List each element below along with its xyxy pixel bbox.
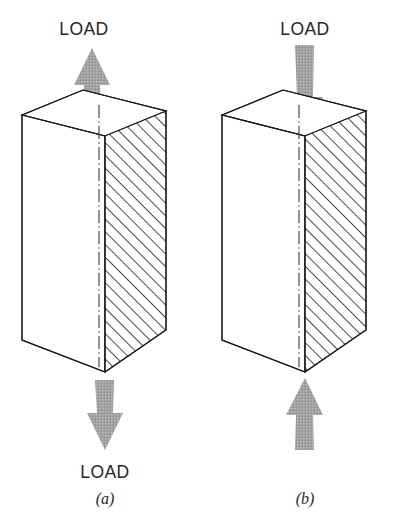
panel-b-hatched-face: [305, 111, 366, 372]
panel-a-hatched-face: [105, 111, 166, 372]
panel-b-caption: (b): [296, 490, 315, 508]
panel-a-prism: [22, 90, 166, 372]
panel-a-front-left-face: [22, 115, 105, 372]
panel-b-top-load-label: LOAD: [280, 19, 329, 39]
panel-a-top-load-label: LOAD: [59, 19, 108, 39]
panel-a-bottom-load-label: LOAD: [80, 462, 129, 482]
panel-b-prism: [222, 90, 366, 372]
panel-a-caption: (a): [96, 490, 115, 508]
panel-b-front-left-face: [222, 115, 305, 372]
tension-compression-figure: LOAD LOAD (a) LOA: [0, 0, 399, 513]
